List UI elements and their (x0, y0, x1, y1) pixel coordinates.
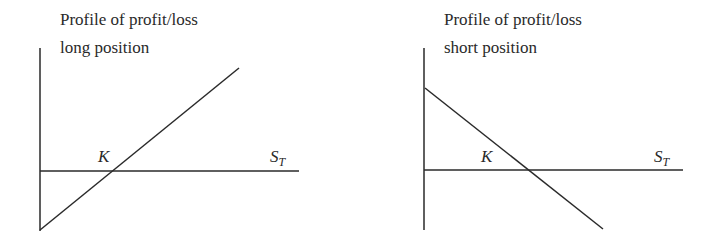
long-strike-label: K (98, 147, 109, 167)
long-payoff-line (40, 68, 239, 230)
short-payoff-line (425, 88, 603, 229)
long-title-line2: long position (60, 38, 198, 58)
short-x-label-main: S (654, 147, 663, 166)
short-title-line2: short position (444, 38, 582, 58)
short-strike-label: K (481, 147, 492, 167)
short-x-label-sub: T (663, 155, 670, 169)
short-position-diagram (424, 48, 683, 230)
short-title: Profile of profit/loss short position (444, 10, 582, 58)
long-title: Profile of profit/loss long position (60, 10, 198, 58)
long-title-line1: Profile of profit/loss (60, 10, 198, 30)
long-x-label-sub: T (279, 155, 286, 169)
short-x-label: ST (654, 147, 669, 167)
long-position-diagram (40, 48, 299, 231)
short-title-line1: Profile of profit/loss (444, 10, 582, 30)
long-x-label: ST (270, 147, 285, 167)
long-x-label-main: S (270, 147, 279, 166)
